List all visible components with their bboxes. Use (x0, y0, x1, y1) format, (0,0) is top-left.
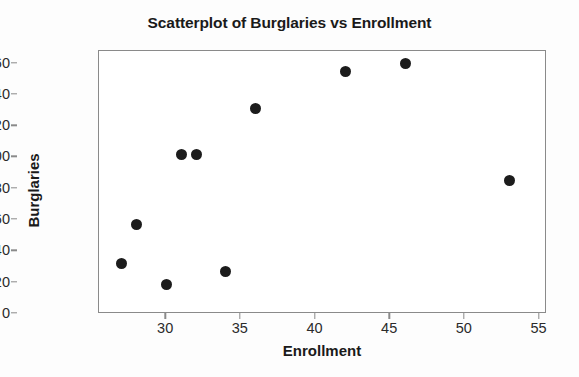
data-point (161, 279, 172, 290)
scatterplot-figure: Scatterplot of Burglaries vs Enrollment … (0, 0, 579, 377)
data-point (191, 149, 202, 160)
x-tick-mark (538, 313, 539, 319)
x-tick-label: 45 (381, 320, 397, 336)
x-axis-title: Enrollment (98, 342, 546, 359)
x-tick-label: 35 (232, 320, 248, 336)
x-tick-label: 40 (306, 320, 322, 336)
data-point (340, 66, 351, 77)
x-tick-label: 30 (157, 320, 173, 336)
data-point (504, 175, 515, 186)
x-tick-mark (239, 313, 240, 319)
x-tick-mark (314, 313, 315, 319)
data-point (131, 219, 142, 230)
data-points-layer (99, 51, 545, 312)
data-point (400, 58, 411, 69)
x-tick-mark (463, 313, 464, 319)
x-tick-mark (388, 313, 389, 319)
x-tick-label: 55 (530, 320, 546, 336)
x-tick-label: 50 (456, 320, 472, 336)
data-point (250, 103, 261, 114)
data-point (116, 258, 127, 269)
data-point (176, 149, 187, 160)
plot-area (98, 50, 546, 313)
x-tick-mark (164, 313, 165, 319)
data-point (220, 266, 231, 277)
